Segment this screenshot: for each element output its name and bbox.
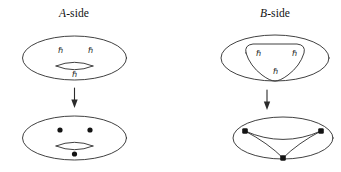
hbar-label-b-lower-center: ℏ: [273, 68, 278, 76]
hbar-label-a-upper-left: ℏ: [58, 47, 63, 55]
punctured-torus-hole-upper-arc: [56, 142, 93, 146]
theta-vertex-right: [318, 128, 324, 134]
punctured-torus-hole-lower-arc: [56, 146, 93, 150]
b-side-bottom-shape: [233, 117, 333, 161]
puncture-dot-upper-right: [87, 127, 92, 132]
hbar-label-a-upper-right: ℏ: [88, 47, 93, 55]
figure-root: A-side B-side: [0, 0, 341, 172]
theta-edge-left-right: [245, 131, 321, 140]
b-bottom-outer-ellipse: [233, 117, 333, 159]
downward-arrow-head: [71, 100, 77, 109]
hbar-label-a-lower-center: ℏ: [72, 71, 77, 79]
puncture-dot-upper-left: [57, 127, 62, 132]
a-side-bottom-torus: [23, 116, 127, 160]
diagram-canvas: [0, 0, 341, 172]
theta-vertex-bottom: [280, 155, 286, 161]
hbar-label-b-upper-left: ℏ: [256, 50, 261, 58]
hbar-label-b-upper-right: ℏ: [292, 50, 297, 58]
torus-hole-upper-arc: [56, 62, 93, 66]
puncture-dot-lower-center: [72, 151, 77, 156]
a-side-arrow: [71, 88, 77, 108]
theta-vertex-left: [242, 128, 248, 134]
b-side-arrow: [264, 90, 270, 110]
downward-arrow-head: [264, 102, 270, 111]
